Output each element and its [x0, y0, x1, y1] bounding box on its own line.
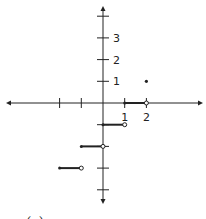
- x-tick-label: 1: [121, 111, 128, 124]
- y-tick-label: 2: [113, 54, 120, 67]
- y-axis-up-arrow-icon: [101, 6, 106, 11]
- closed-endpoint: [102, 123, 105, 126]
- open-endpoint: [101, 144, 105, 148]
- figure-caption: (c): [26, 214, 43, 219]
- closed-endpoint: [80, 145, 83, 148]
- open-endpoint: [144, 101, 148, 105]
- y-tick-label: 3: [113, 32, 120, 45]
- closed-endpoint: [123, 102, 126, 105]
- step-function-chart: 12123(c): [0, 0, 206, 219]
- closed-endpoint: [58, 167, 61, 170]
- open-endpoint: [79, 166, 83, 170]
- x-axis-right-arrow-icon: [198, 101, 203, 106]
- x-axis-left-arrow-icon: [6, 101, 11, 106]
- y-tick-label: 1: [113, 75, 120, 88]
- filled-point: [145, 80, 148, 83]
- x-tick-label: 2: [143, 111, 150, 124]
- open-endpoint: [123, 123, 127, 127]
- y-axis-down-arrow-icon: [101, 199, 106, 204]
